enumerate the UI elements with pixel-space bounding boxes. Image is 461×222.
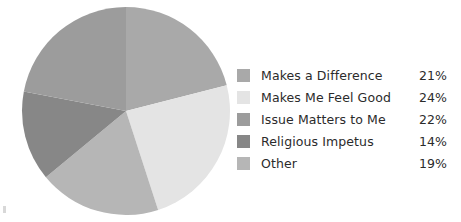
legend-swatch-icon-other <box>237 157 250 170</box>
legend-item-issue-matters-to-me[interactable]: Issue Matters to Me 22% <box>237 108 447 130</box>
legend-label-makes-a-difference: Makes a Difference <box>261 69 407 82</box>
legend-item-religious-impetus[interactable]: Religious Impetus 14% <box>237 130 447 152</box>
legend-value-issue-matters-to-me: 22% <box>407 113 447 126</box>
legend-value-makes-a-difference: 21% <box>407 69 447 82</box>
pie-chart <box>21 6 231 216</box>
pie-chart-container <box>21 6 231 216</box>
legend-label-makes-me-feel-good: Makes Me Feel Good <box>261 91 407 104</box>
legend-item-other[interactable]: Other 19% <box>237 152 447 174</box>
legend-swatch-icon-issue-matters-to-me <box>237 113 250 126</box>
legend-swatch-icon-makes-a-difference <box>237 69 250 82</box>
chart-legend: Makes a Difference 21% Makes Me Feel Goo… <box>237 64 447 174</box>
pie-chart-figure: Makes a Difference 21% Makes Me Feel Goo… <box>0 0 461 222</box>
legend-label-religious-impetus: Religious Impetus <box>261 135 407 148</box>
legend-value-religious-impetus: 14% <box>407 135 447 148</box>
legend-label-issue-matters-to-me: Issue Matters to Me <box>261 113 407 126</box>
scan-corner-mark <box>3 206 6 213</box>
legend-item-makes-me-feel-good[interactable]: Makes Me Feel Good 24% <box>237 86 447 108</box>
legend-label-other: Other <box>261 157 407 170</box>
legend-item-makes-a-difference[interactable]: Makes a Difference 21% <box>237 64 447 86</box>
legend-value-other: 19% <box>407 157 447 170</box>
legend-value-makes-me-feel-good: 24% <box>407 91 447 104</box>
pie-slice-group <box>22 7 230 215</box>
legend-swatch-icon-makes-me-feel-good <box>237 91 250 104</box>
legend-swatch-icon-religious-impetus <box>237 135 250 148</box>
